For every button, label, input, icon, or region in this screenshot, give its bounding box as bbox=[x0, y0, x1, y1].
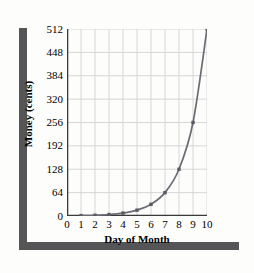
x-axis-tick-labels: 012345678910 bbox=[67, 219, 207, 233]
x-tick-label: 7 bbox=[162, 219, 168, 230]
data-point-marker bbox=[121, 211, 124, 214]
x-tick-label: 9 bbox=[190, 219, 196, 230]
data-point-marker bbox=[107, 213, 110, 216]
y-tick-label: 512 bbox=[47, 24, 64, 35]
data-point-marker bbox=[163, 191, 166, 194]
x-tick-label: 2 bbox=[92, 219, 98, 230]
data-point-marker bbox=[205, 29, 207, 31]
y-tick-label: 192 bbox=[47, 140, 64, 151]
y-tick-label: 320 bbox=[47, 94, 64, 105]
chart-plot-svg bbox=[67, 29, 207, 216]
data-point-marker bbox=[79, 214, 82, 216]
x-tick-label: 1 bbox=[78, 219, 84, 230]
x-tick-label: 5 bbox=[134, 219, 140, 230]
data-point-marker bbox=[149, 203, 152, 206]
data-point-marker bbox=[177, 168, 180, 171]
data-point-marker bbox=[93, 214, 96, 216]
plot-area bbox=[67, 29, 207, 216]
y-tick-label: 0 bbox=[58, 211, 64, 222]
data-point-marker bbox=[135, 208, 138, 211]
y-tick-label: 128 bbox=[47, 164, 64, 175]
chart-figure: 064128192256320384448512 012345678910 Da… bbox=[0, 0, 254, 273]
x-tick-label: 3 bbox=[106, 219, 112, 230]
y-tick-label: 256 bbox=[47, 117, 64, 128]
y-tick-label: 384 bbox=[47, 70, 64, 81]
x-tick-label: 8 bbox=[176, 219, 182, 230]
data-point-marker bbox=[191, 121, 194, 124]
x-axis-title: Day of Month bbox=[67, 233, 207, 245]
x-tick-label: 6 bbox=[148, 219, 154, 230]
y-tick-label: 448 bbox=[47, 47, 64, 58]
x-tick-label: 10 bbox=[202, 219, 213, 230]
x-tick-label: 4 bbox=[120, 219, 126, 230]
y-axis-tick-labels: 064128192256320384448512 bbox=[36, 29, 63, 216]
x-tick-label: 0 bbox=[64, 219, 70, 230]
y-tick-label: 64 bbox=[52, 187, 63, 198]
y-axis-title: Money (cents) bbox=[22, 64, 34, 164]
